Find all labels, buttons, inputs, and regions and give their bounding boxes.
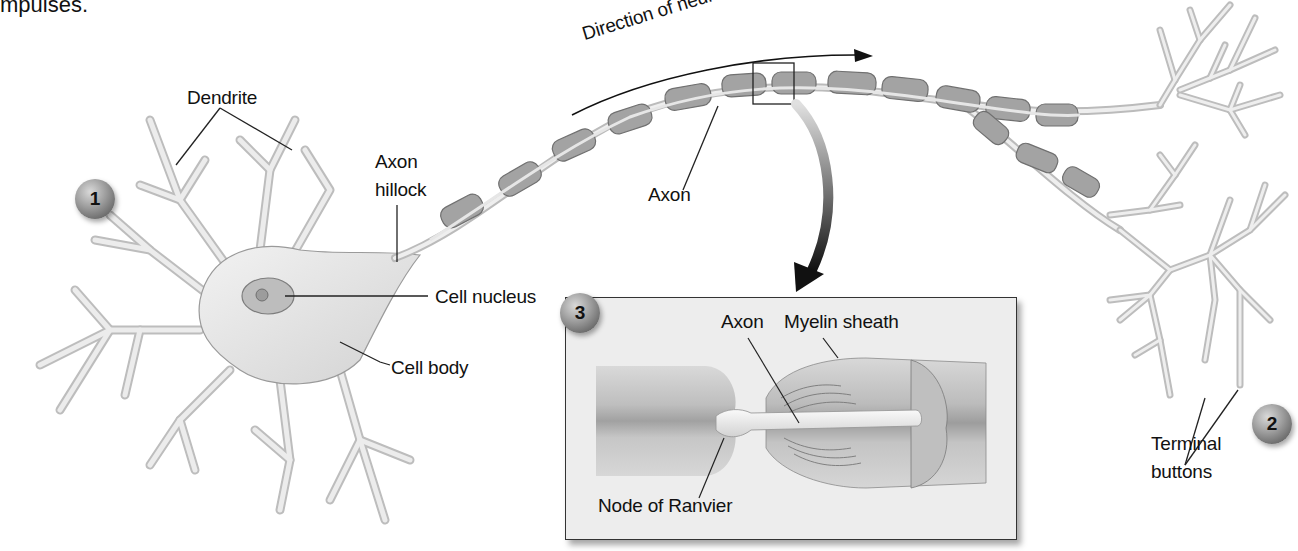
inset-pointer-arrow <box>796 104 828 270</box>
cell-body-shape <box>199 247 420 384</box>
label-cell-nucleus: Cell nucleus <box>435 285 536 308</box>
neuron-diagram: mpulses. <box>0 0 1298 551</box>
label-axon-hillock-line1: Axon <box>375 150 418 173</box>
inset-label-axon: Axon <box>721 310 764 333</box>
myelin-segments <box>437 71 1102 231</box>
label-dendrite: Dendrite <box>187 86 257 109</box>
label-terminal-buttons-line1: Terminal <box>1151 432 1221 455</box>
label-axon-hillock-line2: hillock <box>375 178 426 201</box>
step-badge-1: 1 <box>75 179 115 219</box>
inset-node-of-ranvier-detail: Axon Myelin sheath Node of Ranvier <box>565 297 1017 540</box>
label-terminal-buttons-line2: buttons <box>1151 460 1212 483</box>
step-badge-2: 2 <box>1252 404 1292 444</box>
label-cell-body: Cell body <box>391 356 468 379</box>
inset-label-myelin-sheath: Myelin sheath <box>784 310 899 333</box>
label-axon: Axon <box>648 183 691 206</box>
inset-label-node-of-ranvier: Node of Ranvier <box>598 494 732 517</box>
step-badge-3: 3 <box>560 293 600 333</box>
